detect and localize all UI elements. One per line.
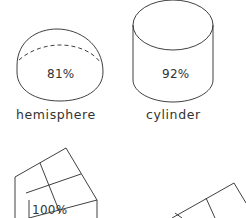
slab-shape — [172, 183, 246, 218]
cube-percent: 100% — [32, 203, 68, 217]
cylinder-label: cylinder — [146, 107, 201, 122]
cylinder-percent: 92% — [162, 67, 190, 81]
hemisphere-shape — [17, 29, 103, 101]
hemisphere-label: hemisphere — [16, 107, 96, 122]
cylinder-shape — [133, 0, 213, 102]
hemisphere-percent: 81% — [47, 67, 75, 81]
